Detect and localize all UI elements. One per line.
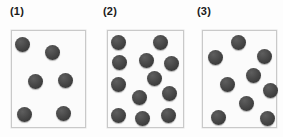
sphere <box>211 110 226 125</box>
sphere <box>239 96 254 111</box>
particle-concentration-figure: (1)(2)(3) <box>0 0 283 137</box>
sphere <box>208 50 223 65</box>
sphere <box>220 77 235 92</box>
sphere <box>263 83 278 98</box>
panel-label-3: (3) <box>197 6 211 17</box>
sphere <box>246 68 261 83</box>
sphere <box>260 111 275 126</box>
panel-3: (3) <box>0 0 283 137</box>
container-box-3 <box>202 30 277 128</box>
sphere <box>231 35 246 50</box>
sphere <box>257 49 272 64</box>
